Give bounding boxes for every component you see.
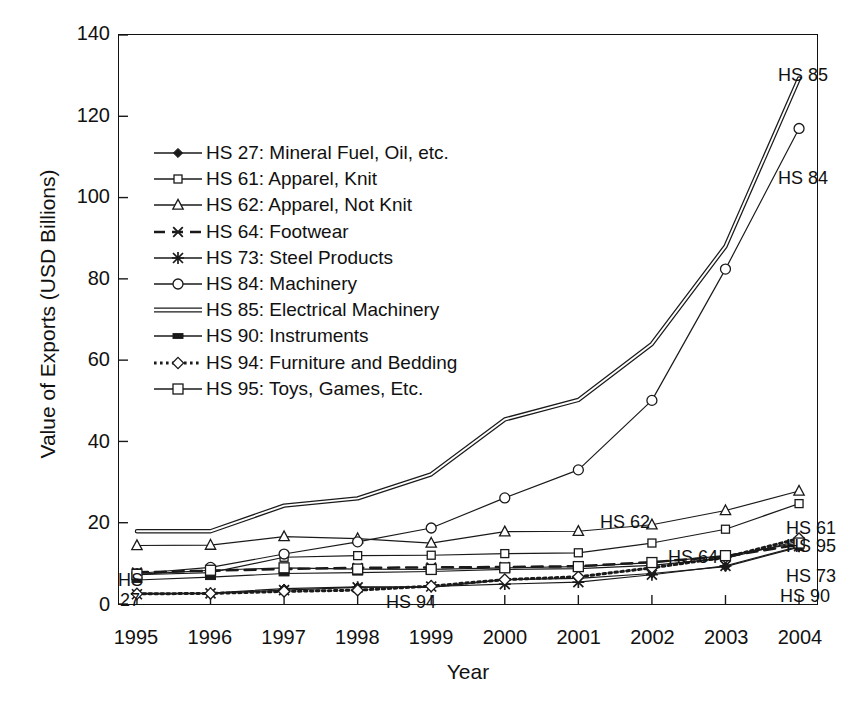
series-hs62 — [132, 485, 804, 549]
x-axis-title: Year — [118, 660, 818, 684]
annotation-hs27a: HS — [118, 570, 143, 591]
legend-item-hs61: HS 61: Apparel, Knit — [152, 166, 457, 192]
legend-key-icon — [152, 247, 204, 269]
legend-item-hs73: HS 73: Steel Products — [152, 245, 457, 271]
legend-label: HS 85: Electrical Machinery — [204, 299, 439, 321]
legend-item-hs94: HS 94: Furniture and Bedding — [152, 350, 457, 376]
legend-item-hs27: HS 27: Mineral Fuel, Oil, etc. — [152, 140, 457, 166]
legend-key-icon — [152, 299, 204, 321]
x-tick-label: 1995 — [101, 626, 171, 649]
y-tick-label: 80 — [34, 267, 110, 290]
x-tick-label: 1998 — [322, 626, 392, 649]
annotation-hs73: HS 73 — [786, 566, 836, 587]
legend-key-icon — [152, 142, 204, 164]
y-tick-label: 40 — [34, 430, 110, 453]
legend-key-icon — [152, 273, 204, 295]
y-tick-label: 60 — [34, 348, 110, 371]
legend-key-icon — [152, 378, 204, 400]
annotation-hs94: HS 94 — [386, 592, 436, 613]
x-tick-label: 2003 — [691, 626, 761, 649]
legend-item-hs84: HS 84: Machinery — [152, 271, 457, 297]
annotation-hs27b: 27 — [120, 590, 140, 611]
x-tick-label: 1997 — [249, 626, 319, 649]
x-tick-label: 2002 — [617, 626, 687, 649]
y-tick-label: 140 — [34, 22, 110, 45]
y-tick-label: 120 — [34, 104, 110, 127]
legend: HS 27: Mineral Fuel, Oil, etc.HS 61: App… — [152, 140, 457, 402]
x-tick-label: 1996 — [175, 626, 245, 649]
x-tick-label: 2001 — [544, 626, 614, 649]
legend-key-icon — [152, 325, 204, 347]
y-axis-tick-labels: 020406080100120140 — [34, 0, 110, 704]
x-axis-tick-labels: 1995199619971998199920002001200220032004 — [118, 612, 818, 652]
legend-item-hs90: HS 90: Instruments — [152, 323, 457, 349]
legend-label: HS 64: Footwear — [204, 221, 349, 243]
legend-label: HS 27: Mineral Fuel, Oil, etc. — [204, 142, 449, 164]
legend-label: HS 73: Steel Products — [204, 247, 393, 269]
annotation-hs62: HS 62 — [600, 512, 650, 533]
annotation-hs90: HS 90 — [780, 586, 830, 607]
annotation-hs84: HS 84 — [778, 168, 828, 189]
annotation-hs95: HS 95 — [786, 536, 836, 557]
legend-key-icon — [152, 352, 204, 374]
legend-key-icon — [152, 194, 204, 216]
y-tick-label: 0 — [34, 593, 110, 616]
y-tick-label: 100 — [34, 185, 110, 208]
legend-item-hs64: HS 64: Footwear — [152, 219, 457, 245]
legend-item-hs95: HS 95: Toys, Games, Etc. — [152, 376, 457, 402]
legend-item-hs85: HS 85: Electrical Machinery — [152, 297, 457, 323]
legend-label: HS 90: Instruments — [204, 325, 369, 347]
legend-label: HS 94: Furniture and Bedding — [204, 352, 457, 374]
legend-key-icon — [152, 221, 204, 243]
legend-key-icon — [152, 168, 204, 190]
legend-label: HS 62: Apparel, Not Knit — [204, 194, 412, 216]
annotation-hs64: HS 64 — [668, 547, 718, 568]
x-tick-label: 2000 — [470, 626, 540, 649]
legend-label: HS 95: Toys, Games, Etc. — [204, 378, 423, 400]
annotation-hs85: HS 85 — [778, 65, 828, 86]
legend-item-hs62: HS 62: Apparel, Not Knit — [152, 192, 457, 218]
x-tick-label: 2004 — [765, 626, 835, 649]
y-tick-label: 20 — [34, 511, 110, 534]
legend-label: HS 84: Machinery — [204, 273, 357, 295]
chart-figure: Value of Exports (USD Billions) Year 020… — [0, 0, 849, 704]
legend-label: HS 61: Apparel, Knit — [204, 168, 377, 190]
x-tick-label: 1999 — [396, 626, 466, 649]
